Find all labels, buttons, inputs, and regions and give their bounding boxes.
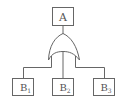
top-event-node: A [53,8,74,26]
basic-event-b3: B3 [94,79,115,96]
fault-tree-diagram: A B1 B2 B3 [0,0,126,106]
basic-event-b2: B2 [53,79,74,96]
or-gate-icon [49,34,80,61]
connector-b1 [24,56,52,78]
basic-event-b1: B1 [13,79,34,96]
top-event-label: A [58,11,68,24]
